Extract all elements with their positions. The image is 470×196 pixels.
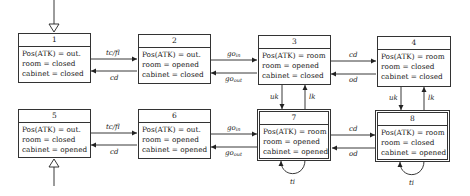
- state-id: 5: [19, 110, 90, 123]
- state-room: room = opened: [142, 135, 210, 145]
- label-8-self: ti: [409, 179, 414, 187]
- state-cabinet: cabinet = opened: [22, 145, 90, 155]
- label-2-to-1: cd: [110, 74, 118, 82]
- state-pos: Pos(ATK) = room: [381, 128, 447, 138]
- state-cabinet: cabinet = closed: [142, 70, 210, 80]
- state-3: 3 Pos(ATK) = room room = opened cabinet …: [258, 35, 331, 85]
- state-2: 2 Pos(ATK) = out. room = opened cabinet …: [138, 34, 211, 84]
- state-room: room = closed: [381, 138, 447, 148]
- label-3-to-2: goout: [225, 75, 242, 84]
- state-cabinet: cabinet = closed: [262, 71, 330, 81]
- state-room: room = closed: [381, 62, 450, 72]
- label-7-to-8: cd: [349, 125, 357, 133]
- state-room: room = opened: [262, 61, 330, 71]
- label-3-to-7: uk: [270, 93, 279, 101]
- label-4-to-8: uk: [389, 94, 398, 102]
- state-8: 8 Pos(ATK) = room room = closed cabinet …: [375, 110, 450, 162]
- label-sub: in: [236, 52, 241, 58]
- state-pos: Pos(ATK) = room: [263, 127, 328, 137]
- state-id: 1: [19, 34, 90, 47]
- state-id: 8: [378, 113, 447, 126]
- state-cabinet: cabinet = opened: [142, 145, 210, 155]
- state-cabinet: cabinet = closed: [22, 69, 90, 79]
- state-id: 2: [139, 35, 210, 48]
- state-room: room = opened: [263, 137, 328, 147]
- label-sub: out: [234, 151, 242, 157]
- state-cabinet: cabinet = opened: [381, 148, 447, 158]
- state-pos: Pos(ATK) = room: [262, 51, 330, 61]
- label-6-to-5: cd: [110, 148, 118, 156]
- label-base: go: [227, 50, 236, 58]
- state-1: 1 Pos(ATK) = out. room = closed cabinet …: [18, 33, 91, 83]
- state-id: 7: [260, 112, 328, 125]
- initial-arrow-5: [49, 159, 59, 186]
- initial-arrow-1: [49, 0, 59, 32]
- state-id: 4: [378, 37, 450, 50]
- state-room: room = closed: [22, 135, 90, 145]
- state-7: 7 Pos(ATK) = room room = opened cabinet …: [257, 109, 331, 161]
- state-pos: Pos(ATK) = out.: [22, 125, 90, 135]
- label-base: go: [225, 149, 234, 157]
- state-cabinet: cabinet = closed: [381, 72, 450, 82]
- state-pos: Pos(ATK) = out.: [22, 49, 90, 59]
- label-base: go: [225, 75, 234, 83]
- label-8-to-7: od: [349, 150, 358, 158]
- label-base: go: [227, 124, 236, 132]
- label-7-self: ti: [290, 178, 295, 186]
- state-room: room = closed: [22, 59, 90, 69]
- label-2-to-3: goin: [227, 50, 241, 59]
- label-4-to-3: od: [349, 76, 358, 84]
- state-6: 6 Pos(ATK) = out. room = opened cabinet …: [138, 109, 211, 159]
- label-sub: out: [234, 77, 242, 83]
- state-cabinet: cabinet = opened: [263, 147, 328, 157]
- state-pos: Pos(ATK) = room: [381, 52, 450, 62]
- label-6-to-7: goin: [227, 124, 241, 133]
- state-5: 5 Pos(ATK) = out. room = closed cabinet …: [18, 109, 91, 158]
- label-3-to-4: cd: [349, 51, 357, 59]
- label-7-to-6: goout: [225, 149, 242, 158]
- label-7-to-3: lk: [309, 93, 315, 101]
- label-5-to-6: tc/fl: [106, 123, 120, 131]
- state-room: room = opened: [142, 60, 210, 70]
- state-id: 3: [259, 36, 330, 49]
- label-sub: in: [236, 126, 241, 132]
- state-transition-diagram: 1 Pos(ATK) = out. room = closed cabinet …: [0, 0, 470, 196]
- state-4: 4 Pos(ATK) = room room = closed cabinet …: [377, 36, 451, 87]
- label-8-to-4: lk: [428, 94, 434, 102]
- edges-layer: [0, 0, 470, 196]
- state-pos: Pos(ATK) = out.: [142, 125, 210, 135]
- label-1-to-2: tc/fl: [106, 49, 120, 57]
- state-pos: Pos(ATK) = out.: [142, 50, 210, 60]
- state-id: 6: [139, 110, 210, 123]
